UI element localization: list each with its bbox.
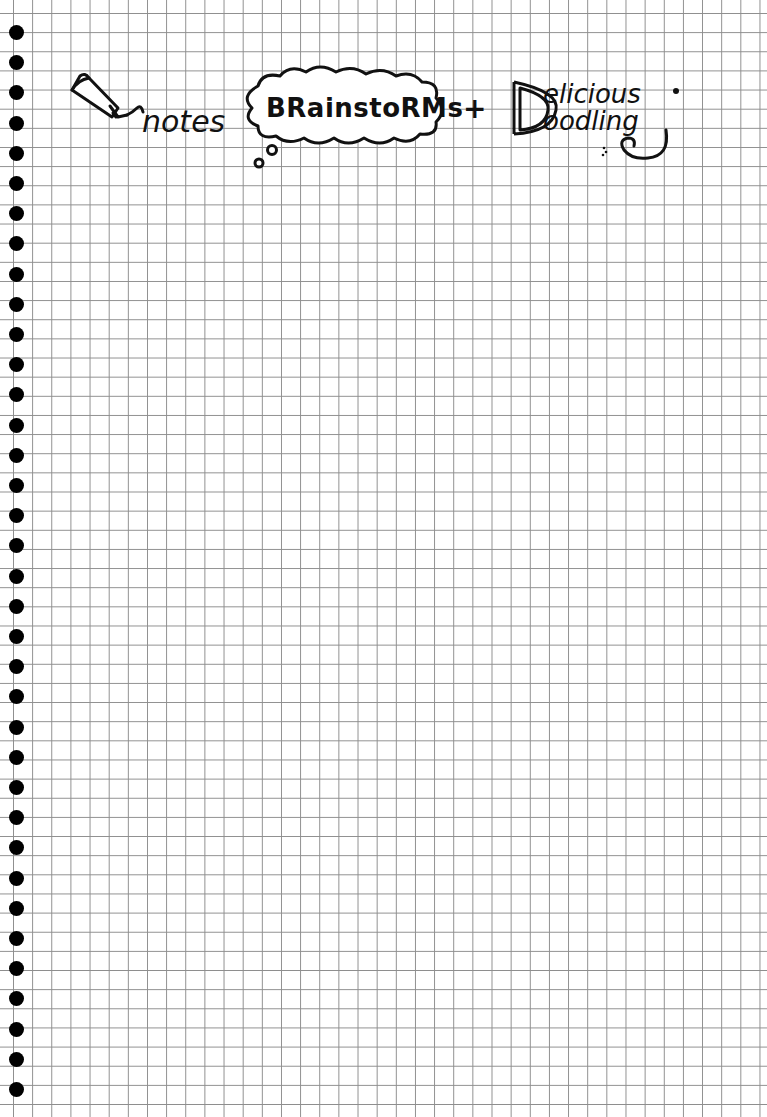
title-word-brainstorms: BRainstoRMs <box>266 93 463 123</box>
binding-hole <box>9 599 24 614</box>
binding-hole <box>9 418 24 433</box>
binding-hole <box>9 569 24 584</box>
binding-hole <box>9 387 24 402</box>
binding-hole <box>9 267 24 282</box>
binding-hole <box>9 659 24 674</box>
binding-hole <box>9 448 24 463</box>
binding-hole <box>9 478 24 493</box>
binding-hole <box>9 750 24 765</box>
binding-hole <box>9 1082 24 1097</box>
binding-hole <box>9 629 24 644</box>
binding-hole <box>9 327 24 342</box>
binding-hole <box>9 780 24 795</box>
binding-hole <box>9 206 24 221</box>
binding-hole <box>9 689 24 704</box>
binding-hole <box>9 871 24 886</box>
title-connector-plus: + <box>463 92 486 125</box>
title-word-delicious: elicious <box>543 79 641 109</box>
binding-hole <box>9 297 24 312</box>
binding-hole <box>9 901 24 916</box>
binding-hole <box>9 1052 24 1067</box>
binding-hole <box>9 840 24 855</box>
binding-hole <box>9 1022 24 1037</box>
binding-hole <box>9 236 24 251</box>
binding-hole <box>9 720 24 735</box>
binding-hole <box>9 961 24 976</box>
pencil-icon <box>72 74 143 117</box>
binding-hole <box>9 991 24 1006</box>
binding-hole <box>9 508 24 523</box>
title-art: notes BRainstoRMs + elicious oodling <box>0 0 767 200</box>
title-word-notes: notes <box>142 104 225 139</box>
binding-hole <box>9 357 24 372</box>
binding-hole <box>9 538 24 553</box>
title-word-doodling: oodling <box>543 106 639 136</box>
title-word-delicious-doodling: elicious oodling <box>514 79 679 158</box>
binding-hole <box>9 810 24 825</box>
binding-hole <box>9 931 24 946</box>
